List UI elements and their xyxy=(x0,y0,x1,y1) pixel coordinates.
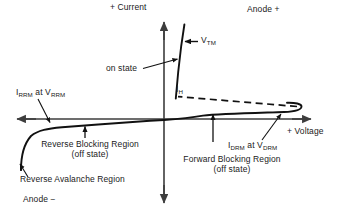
irrm-current-subscript: RRM xyxy=(18,91,32,98)
anode-positive-label: Anode + xyxy=(247,5,280,15)
irrm-voltage-subscript: RRM xyxy=(51,91,65,98)
negative-resistance-dashed-line xyxy=(178,97,297,107)
idrm-voltage-symbol: V xyxy=(257,140,263,150)
ih-label: IH xyxy=(176,85,183,95)
reverse-blocking-region-line2: (off state) xyxy=(31,150,149,160)
idrm-current-subscript: DRM xyxy=(230,144,244,151)
vtm-symbol: V xyxy=(201,35,207,45)
vtm-label: VTM xyxy=(201,36,216,46)
idrm-voltage-subscript: DRM xyxy=(263,144,277,151)
irrm-label: IRRM at VRRM xyxy=(16,88,65,98)
diagram-canvas: + Current Anode + + Voltage Anode − VTM … xyxy=(0,0,342,216)
on-state-label: on state xyxy=(106,64,137,74)
y-axis-label: + Current xyxy=(110,3,147,13)
reverse-avalanche-region-label: Reverse Avalanche Region xyxy=(20,175,125,185)
vtm-subscript: TM xyxy=(207,39,216,46)
forward-blocking-region-label: Forward Blocking Region (off state) xyxy=(172,155,292,175)
forward-blocking-region-line2: (off state) xyxy=(172,165,292,175)
idrm-leader-arrow xyxy=(262,114,281,140)
reverse-blocking-region-label: Reverse Blocking Region (off state) xyxy=(31,140,149,160)
irrm-voltage-symbol: V xyxy=(45,87,51,97)
irrm-at-text: at xyxy=(33,87,45,97)
ih-subscript: H xyxy=(178,88,183,95)
on-state-leader-arrow xyxy=(143,59,178,69)
idrm-at-text: at xyxy=(245,140,257,150)
idrm-label: IDRM at VDRM xyxy=(228,141,277,151)
anode-negative-label: Anode − xyxy=(23,195,56,205)
x-axis-label: + Voltage xyxy=(287,127,324,137)
